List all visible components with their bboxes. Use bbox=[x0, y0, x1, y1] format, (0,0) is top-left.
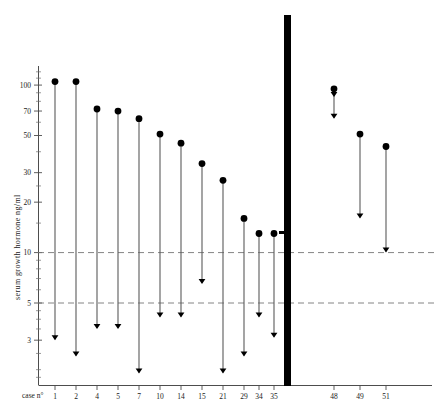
marker-dot-case-14 bbox=[178, 140, 185, 147]
x-label-case-51: 51 bbox=[382, 392, 390, 401]
marker-dot-case-35 bbox=[271, 230, 278, 237]
marker-dot-case-51 bbox=[383, 143, 390, 150]
marker-dot-case-4 bbox=[94, 106, 101, 113]
marker-dot-case-21 bbox=[220, 177, 227, 184]
y-axis-title: serum growth hormone ng/ml bbox=[13, 194, 22, 300]
marker-dot-case-49 bbox=[357, 131, 364, 138]
x-label-case-48: 48 bbox=[330, 392, 338, 401]
group-divider-bar bbox=[284, 15, 291, 386]
x-label-case-35: 35 bbox=[270, 392, 278, 401]
y-tick-label-5: 5 bbox=[27, 299, 31, 308]
marker-dot-case-1 bbox=[52, 78, 59, 85]
x-label-case-15: 15 bbox=[198, 392, 206, 401]
marker-dot-case-5 bbox=[115, 108, 122, 115]
y-tick-label-100: 100 bbox=[20, 81, 32, 90]
x-label-case-4: 4 bbox=[95, 392, 99, 401]
y-tick-label-50: 50 bbox=[24, 131, 32, 140]
x-label-case-49: 49 bbox=[356, 392, 364, 401]
marker-dot-case-2 bbox=[73, 78, 80, 85]
chart-canvas: 100705030201053 serum growth hormone ng/… bbox=[0, 0, 437, 414]
x-label-case-21: 21 bbox=[219, 392, 227, 401]
x-label-case-29: 29 bbox=[240, 392, 248, 401]
marker-dot-case-15 bbox=[199, 160, 206, 167]
x-label-case-10: 10 bbox=[156, 392, 164, 401]
chart-background bbox=[0, 0, 437, 414]
y-tick-label-10: 10 bbox=[24, 248, 32, 257]
x-label-case-7: 7 bbox=[137, 392, 141, 401]
y-tick-label-30: 30 bbox=[24, 168, 32, 177]
x-label-case-1: 1 bbox=[53, 392, 57, 401]
y-tick-label-3: 3 bbox=[27, 336, 31, 345]
marker-dot-case-34 bbox=[256, 230, 263, 237]
x-label-case-2: 2 bbox=[74, 392, 78, 401]
y-tick-label-20: 20 bbox=[24, 198, 32, 207]
x-label-case-14: 14 bbox=[177, 392, 185, 401]
x-axis-caption: case n° bbox=[22, 391, 44, 400]
divider-tick-mark bbox=[279, 231, 285, 234]
marker-dot-case-29 bbox=[241, 215, 248, 222]
marker-dot-case-10 bbox=[157, 131, 164, 138]
x-label-case-5: 5 bbox=[116, 392, 120, 401]
y-tick-label-70: 70 bbox=[24, 107, 32, 116]
marker-dot-case-7 bbox=[136, 115, 143, 122]
marker-dot-case-48 bbox=[331, 85, 338, 92]
x-label-case-34: 34 bbox=[255, 392, 263, 401]
growth-hormone-range-chart: 100705030201053 serum growth hormone ng/… bbox=[0, 0, 437, 414]
